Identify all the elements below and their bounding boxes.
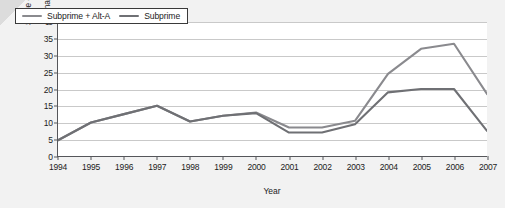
x-axis-tick-mark <box>91 156 92 160</box>
x-axis-tick-label: 1995 <box>82 162 100 172</box>
x-axis-tick-label: 2005 <box>413 162 431 172</box>
y-axis-tick-label: 5 <box>48 135 53 145</box>
chart-legend: Subprime + Alt-A Subprime <box>15 8 188 24</box>
y-axis-tick-mark <box>54 55 58 56</box>
x-axis-tick-label: 2006 <box>446 162 464 172</box>
x-axis-tick-label: 2004 <box>380 162 398 172</box>
x-axis-tick-label: 1998 <box>181 162 199 172</box>
y-axis-tick-mark <box>54 106 58 107</box>
y-axis-tick-mark <box>54 72 58 73</box>
x-axis-tick-mark <box>355 156 356 160</box>
x-axis-tick-mark <box>289 156 290 160</box>
y-axis-tick-mark <box>54 140 58 141</box>
y-axis-tick-mark <box>54 89 58 90</box>
legend-swatch-subprime-alt-a <box>22 15 42 18</box>
page-background: Share of mortgages originated (percent) … <box>0 0 505 208</box>
y-axis-tick-label: 35 <box>44 34 53 44</box>
series-line-subprime <box>58 89 487 140</box>
y-axis-tick-mark <box>54 123 58 124</box>
x-axis-tick-label: 2003 <box>347 162 365 172</box>
x-axis-tick-mark <box>124 156 125 160</box>
x-axis-tick-mark <box>421 156 422 160</box>
x-axis-tick-mark <box>454 156 455 160</box>
series-line-subprime-alt-a <box>58 44 487 140</box>
x-axis-tick-label: 1999 <box>214 162 232 172</box>
y-axis-tick-label: 20 <box>44 85 53 95</box>
legend-item-subprime: Subprime <box>119 11 180 21</box>
x-axis-tick-mark <box>322 156 323 160</box>
x-axis-tick-label: 2001 <box>280 162 298 172</box>
x-axis-tick-label: 2002 <box>314 162 332 172</box>
legend-item-subprime-alt-a: Subprime + Alt-A <box>22 11 110 21</box>
x-axis-tick-mark <box>388 156 389 160</box>
plot-area: 0510152025303540 19941995199619971998199… <box>57 22 487 157</box>
legend-label-subprime-alt-a: Subprime + Alt-A <box>47 11 110 21</box>
x-axis-label: Year <box>57 186 487 196</box>
x-axis-tick-mark <box>256 156 257 160</box>
y-axis-tick-label: 10 <box>44 118 53 128</box>
legend-swatch-subprime <box>119 15 139 18</box>
x-axis-tick-mark <box>223 156 224 160</box>
x-axis-tick-mark <box>157 156 158 160</box>
x-axis-tick-mark <box>58 156 59 160</box>
x-axis-tick-label: 2007 <box>479 162 497 172</box>
x-axis-tick-label: 1996 <box>115 162 133 172</box>
x-axis-tick-mark <box>190 156 191 160</box>
y-axis-tick-mark <box>54 38 58 39</box>
y-axis-tick-label: 25 <box>44 68 53 78</box>
x-axis-tick-label: 1997 <box>148 162 166 172</box>
y-axis-tick-label: 0 <box>48 152 53 162</box>
x-axis-tick-label: 2000 <box>247 162 265 172</box>
legend-label-subprime: Subprime <box>144 11 180 21</box>
figure-paper: Share of mortgages originated (percent) … <box>0 0 505 208</box>
x-axis-tick-mark <box>488 156 489 160</box>
y-axis-tick-label: 15 <box>44 101 53 111</box>
series-lines <box>58 22 487 156</box>
x-axis-tick-label: 1994 <box>49 162 67 172</box>
y-axis-tick-label: 30 <box>44 51 53 61</box>
